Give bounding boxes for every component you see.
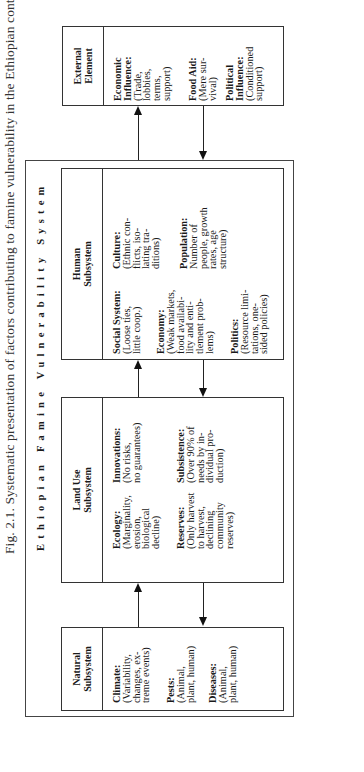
land-use-subsystem-header: Land Use Subsystem bbox=[72, 398, 93, 582]
entry-political-influence: Political Influence: (Conditioned suppor… bbox=[225, 47, 264, 101]
entry-innovations: Innovations: (No risks, no guarantees) bbox=[112, 423, 141, 483]
arrow-line-landuse-to-human bbox=[138, 368, 139, 397]
entry-reserves: Reserves: (Only harvest to harvest, decl… bbox=[176, 493, 235, 549]
entry-subsistence: Subsistence: (Over 90% of needs by in- d… bbox=[176, 426, 225, 483]
rotated-figure: Fig. 2.1. Systematic presentation of fac… bbox=[0, 0, 364, 772]
arrow-right-icon bbox=[134, 360, 142, 369]
entry-climate: Climate: (Variability, changes, ex- trem… bbox=[112, 647, 151, 703]
system-title: Ethiopian Famine Vulnerability System bbox=[35, 182, 46, 551]
external-element-header: External Element bbox=[73, 27, 94, 105]
arrow-left-icon bbox=[199, 617, 207, 626]
arrow-line-external-to-system bbox=[203, 106, 204, 151]
entry-economic-influence: Economic Influence: (Trade, lobbies, ter… bbox=[113, 56, 172, 101]
natural-subsystem-box: Natural Subsystem Climate: (Variability,… bbox=[61, 627, 284, 711]
entry-pests: Pests: (Animal, plant, human) bbox=[166, 646, 195, 703]
arrow-left-icon bbox=[199, 151, 207, 160]
arrow-line-human-to-landuse bbox=[203, 360, 204, 388]
arrow-line-landuse-to-natural bbox=[203, 583, 204, 617]
land-use-subsystem-box: Land Use Subsystem Ecology: (Marginality… bbox=[61, 397, 284, 583]
header-divider bbox=[103, 27, 104, 105]
entry-economy: Economy: (Weak markets, food availabi- l… bbox=[156, 290, 215, 354]
header-divider bbox=[102, 628, 103, 710]
entry-politics: Politics: (Resource limi- tations, one- … bbox=[230, 290, 269, 354]
arrow-right-icon bbox=[134, 106, 142, 115]
arrow-line-system-to-external bbox=[138, 114, 139, 160]
header-divider bbox=[102, 398, 103, 582]
external-element-box: External Element Economic Influence: (Tr… bbox=[62, 26, 284, 106]
natural-subsystem-header: Natural Subsystem bbox=[72, 628, 93, 710]
entry-diseases: Diseases: (Animal, plant, human) bbox=[208, 646, 237, 703]
human-subsystem-header: Human Subsystem bbox=[72, 169, 93, 359]
entry-ecology: Ecology: (Marginality, erosion, biologic… bbox=[112, 495, 161, 549]
arrow-left-icon bbox=[199, 388, 207, 397]
arrow-line-natural-to-landuse bbox=[138, 591, 139, 627]
entry-culture: Culture: (Ethnic con- flicts, iso- latin… bbox=[112, 218, 161, 269]
human-subsystem-box: Human Subsystem Social System: (Loose ti… bbox=[61, 168, 284, 360]
entry-food-aid: Food Aid: (Mere sur- vival) bbox=[188, 57, 217, 101]
figure-caption: Fig. 2.1. Systematic presentation of fac… bbox=[2, 0, 18, 554]
arrow-right-icon bbox=[134, 583, 142, 592]
header-divider bbox=[102, 169, 103, 359]
entry-social-system: Social System: (Loose ties, little coop.… bbox=[112, 290, 141, 354]
entry-population: Population: Number of people, growth rat… bbox=[179, 207, 228, 269]
